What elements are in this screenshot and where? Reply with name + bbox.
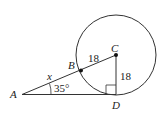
label-a: A xyxy=(9,88,17,100)
label-c: C xyxy=(111,42,119,54)
point-b xyxy=(79,69,83,73)
label-bc-length: 18 xyxy=(88,52,100,64)
label-angle-a: 35° xyxy=(54,82,69,94)
label-cd-length: 18 xyxy=(120,70,132,82)
right-angle-marker xyxy=(106,85,116,95)
angle-arc-a xyxy=(50,84,52,95)
label-b: B xyxy=(68,59,75,71)
geometry-diagram: A B C D x 18 18 35° xyxy=(0,0,164,114)
label-d: D xyxy=(111,99,120,111)
label-x: x xyxy=(46,70,52,82)
